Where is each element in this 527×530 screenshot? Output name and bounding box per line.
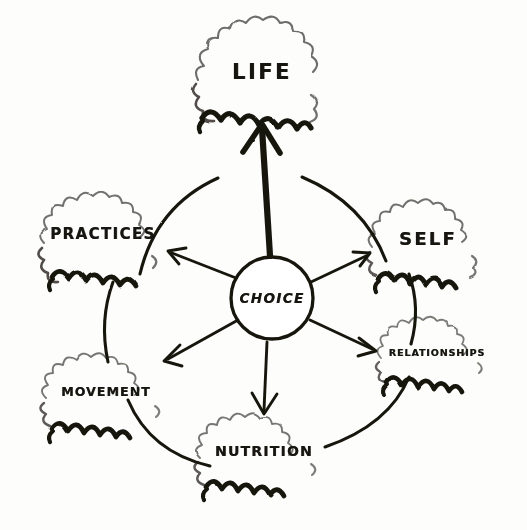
- arc-practices-movement: [104, 282, 113, 362]
- arrow-choice-life: [243, 124, 280, 256]
- arrow-choice-movement: [164, 320, 238, 366]
- diagram-canvas: LIFE PRACTICES SELF MOVEMENT RELATIONSHI…: [0, 0, 527, 530]
- burst-shape-nutrition: [194, 413, 315, 500]
- burst-shape-movement: [40, 353, 159, 442]
- arc-practices-life: [140, 178, 218, 274]
- arc-life-self: [302, 177, 386, 261]
- arc-relationships-nutrition: [325, 377, 409, 447]
- burst-shape-self: [366, 199, 476, 292]
- arrow-choice-practices: [168, 248, 236, 278]
- burst-shape-life: [193, 17, 317, 132]
- burst-shape-relationships: [376, 317, 482, 395]
- arrow-choice-nutrition: [252, 342, 277, 414]
- diagram-drawing: [0, 0, 527, 530]
- arrow-choice-relationships: [310, 320, 376, 356]
- arrow-choice-self: [311, 252, 370, 282]
- burst-shape-practices: [38, 192, 156, 290]
- center-circle-choice: [231, 257, 313, 339]
